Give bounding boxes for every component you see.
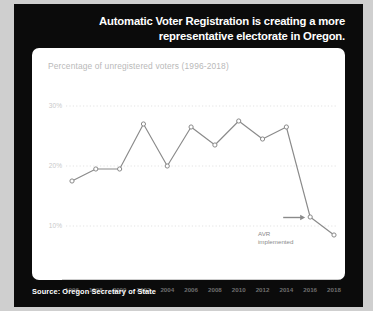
data-point-marker xyxy=(141,122,145,126)
screenshot-frame: Automatic Voter Registration is creating… xyxy=(0,0,373,311)
data-point-marker xyxy=(260,137,264,141)
data-point-marker xyxy=(237,119,241,123)
source-credit: Source: Oregon Secretary of State xyxy=(32,287,156,296)
y-axis-tick-label: 10% xyxy=(40,222,62,229)
y-axis-tick-label: 20% xyxy=(40,162,62,169)
x-axis-tick-label: 2006 xyxy=(178,286,204,293)
data-point-marker xyxy=(165,164,169,168)
data-point-marker xyxy=(70,179,74,183)
x-axis-tick-label: 2008 xyxy=(202,286,228,293)
data-point-marker xyxy=(284,125,288,129)
avr-annotation: AVR implemented xyxy=(258,230,312,247)
x-axis-tick-label: 2004 xyxy=(154,286,180,293)
x-axis-tick-label: 2018 xyxy=(321,286,347,293)
avr-annotation-line2: implemented xyxy=(258,238,293,245)
chart-panel: Percentage of unregistered voters (1996-… xyxy=(32,48,345,280)
x-axis-tick-label: 2012 xyxy=(250,286,276,293)
data-point-marker xyxy=(213,143,217,147)
x-axis-tick-label: 2016 xyxy=(297,286,323,293)
y-axis-tick-label: 30% xyxy=(40,102,62,109)
data-point-marker xyxy=(308,215,312,219)
annotation-arrow-head xyxy=(300,215,305,221)
x-axis-tick-label: 2014 xyxy=(273,286,299,293)
avr-annotation-line1: AVR xyxy=(258,230,270,237)
x-axis-tick-label: 2010 xyxy=(226,286,252,293)
data-point-marker xyxy=(118,167,122,171)
data-point-marker xyxy=(189,125,193,129)
data-point-marker xyxy=(94,167,98,171)
page-title: Automatic Voter Registration is creating… xyxy=(32,14,345,43)
infographic-card: Automatic Voter Registration is creating… xyxy=(14,4,363,307)
data-point-marker xyxy=(332,233,336,237)
